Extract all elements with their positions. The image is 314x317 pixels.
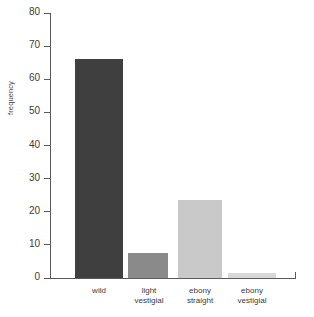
y-axis-line bbox=[50, 13, 51, 279]
x-axis-category-label-line: ebony bbox=[171, 286, 229, 296]
bar bbox=[128, 253, 168, 278]
bar bbox=[178, 200, 222, 278]
y-axis-tick-label: 30 bbox=[0, 172, 40, 183]
x-axis-category-label-line: light bbox=[120, 286, 178, 296]
y-axis-tick-label: 80 bbox=[0, 6, 40, 17]
bar-chart: frequency 01020304050607080 wildlightves… bbox=[0, 0, 314, 317]
y-axis-tick bbox=[44, 244, 50, 245]
x-axis-category-label: lightvestigial bbox=[120, 286, 178, 305]
y-axis-tick-label: 70 bbox=[0, 39, 40, 50]
y-axis-tick-label: 0 bbox=[0, 271, 40, 282]
y-axis-tick bbox=[44, 46, 50, 47]
y-axis-tick bbox=[44, 211, 50, 212]
x-axis-category-label: ebonyvestigial bbox=[223, 286, 281, 305]
y-axis-tick-label: 40 bbox=[0, 139, 40, 150]
bar bbox=[228, 273, 276, 278]
y-axis-label: frequency bbox=[6, 58, 15, 138]
x-axis-category-label-line: ebony bbox=[223, 286, 281, 296]
y-axis-tick-label: 60 bbox=[0, 72, 40, 83]
y-axis-tick-label: 10 bbox=[0, 238, 40, 249]
x-axis-category-label-line: vestigial bbox=[223, 296, 281, 306]
y-axis-tick bbox=[44, 178, 50, 179]
y-axis-tick bbox=[44, 79, 50, 80]
x-axis-category-label: ebonystraight bbox=[171, 286, 229, 305]
y-axis-tick bbox=[44, 278, 50, 279]
y-axis-tick bbox=[44, 145, 50, 146]
y-axis-tick-label: 50 bbox=[0, 105, 40, 116]
x-axis-end-tick bbox=[295, 272, 296, 279]
bar bbox=[75, 59, 123, 278]
y-axis-tick bbox=[44, 112, 50, 113]
x-axis-category-label-line: straight bbox=[171, 296, 229, 306]
x-axis-line bbox=[50, 278, 296, 279]
y-axis-tick-label: 20 bbox=[0, 205, 40, 216]
x-axis-category-label-line: vestigial bbox=[120, 296, 178, 306]
y-axis-tick bbox=[44, 13, 50, 14]
